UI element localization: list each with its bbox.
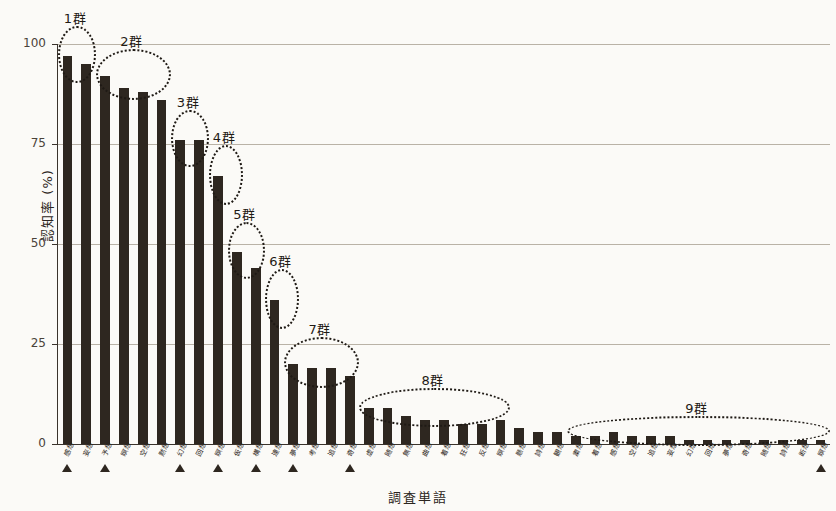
group-ellipse [228, 222, 265, 279]
triangle-marker [100, 464, 110, 472]
group-ellipse [58, 26, 95, 83]
group-label: 6群 [269, 251, 291, 270]
bar [232, 252, 242, 444]
bar-chart-figure: 認知率 (%) 0255075100 感想妄想予想瞑想空想黙想幻想回想瞑想仮想構… [0, 0, 836, 511]
group-label: 4群 [213, 127, 235, 146]
bar [119, 88, 129, 444]
bar [496, 420, 506, 444]
triangle-marker [213, 464, 223, 472]
triangle-marker [288, 464, 298, 472]
group-ellipse [171, 110, 208, 167]
bar [175, 140, 185, 444]
group-label: 9群 [685, 398, 707, 417]
triangle-marker [345, 464, 355, 472]
triangle-marker [251, 464, 261, 472]
group-label: 5群 [233, 204, 255, 223]
bar [345, 376, 355, 444]
triangle-marker [816, 464, 826, 472]
bar [251, 268, 261, 444]
group-label: 2群 [120, 31, 142, 50]
group-label: 7群 [309, 319, 331, 338]
group-ellipse [209, 145, 243, 205]
plot-area [58, 44, 830, 444]
y-tick-label: 0 [0, 436, 46, 450]
y-tick-label: 50 [0, 236, 46, 250]
y-tick-label: 25 [0, 336, 46, 350]
gridline-100 [58, 44, 830, 45]
gridline-25 [58, 344, 830, 345]
bar [194, 140, 204, 444]
y-tick-mark [52, 344, 58, 345]
triangle-marker [175, 464, 185, 472]
y-tick-mark [52, 444, 58, 445]
bar [157, 100, 167, 444]
bar [100, 76, 110, 444]
group-label: 3群 [177, 92, 199, 111]
bar [138, 92, 148, 444]
triangle-marker [62, 464, 72, 472]
group-ellipse [359, 388, 509, 427]
bar [81, 64, 91, 444]
bar [63, 56, 73, 444]
bar [213, 176, 223, 444]
y-tick-mark [52, 144, 58, 145]
y-tick-mark [52, 244, 58, 245]
group-label: 8群 [422, 370, 444, 389]
y-tick-mark [52, 44, 58, 45]
group-ellipse [96, 49, 171, 100]
gridline-50 [58, 244, 830, 245]
x-axis-title: 調査単語 [0, 487, 836, 506]
group-label: 1群 [64, 8, 86, 27]
y-tick-label: 100 [0, 36, 46, 50]
y-tick-label: 75 [0, 136, 46, 150]
group-ellipse [265, 269, 299, 329]
